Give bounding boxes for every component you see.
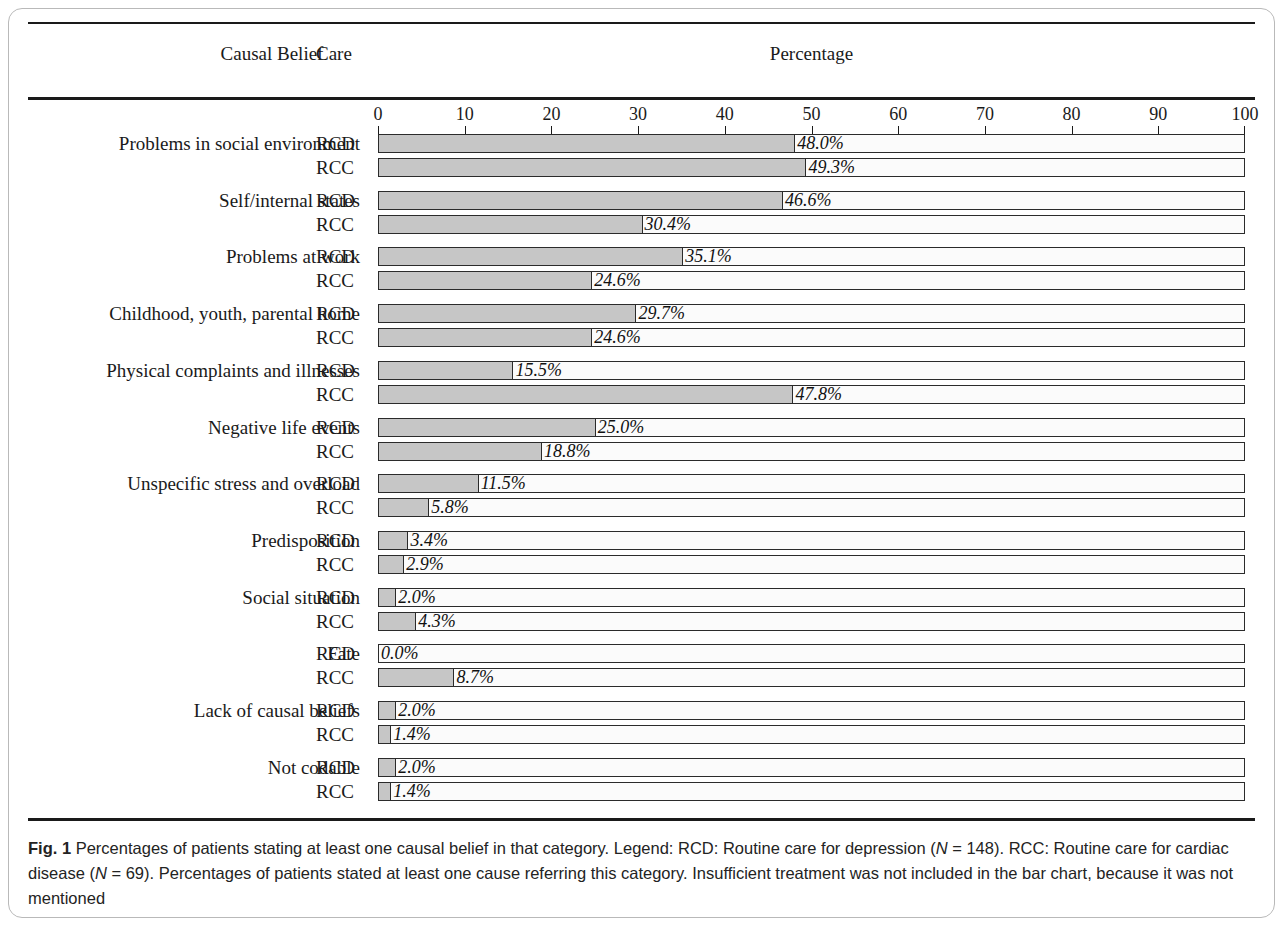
care-label-rcc: RCC [316,270,368,292]
bar-group: Childhood, youth, parental homeRCD29.7%R… [0,302,1283,350]
bar-group: Physical complaints and illnessesRCD15.5… [0,359,1283,407]
caption-n-italic-1: N [936,839,948,857]
bar-value-label: 8.7% [456,667,494,688]
bar-row: RCC1.4% [0,723,1283,747]
bar-value-label: 48.0% [797,133,844,154]
bar-track [378,418,1245,437]
bar-fill [379,783,391,800]
bar-fill [379,386,793,403]
care-label-rcd: RCD [316,757,368,779]
figure-caption: Fig. 1 Percentages of patients stating a… [28,836,1244,911]
x-axis-tick-label: 90 [1149,104,1167,125]
care-label-rcc: RCC [316,781,368,803]
bar-track [378,668,1245,687]
bar-value-label: 49.3% [808,157,855,178]
x-axis-tick-label: 60 [889,104,907,125]
bar-track [378,644,1245,663]
x-axis: 0102030405060708090100 [378,104,1245,132]
bar-fill [379,475,479,492]
bar-fill [379,216,643,233]
bar-row: RCC8.7% [0,666,1283,690]
bar-fill [379,192,783,209]
bar-group: Negative life eventsRCD25.0%RCC18.8% [0,416,1283,464]
bar-row: RCD2.0% [0,699,1283,723]
bar-fill [379,759,396,776]
bar-track [378,612,1245,631]
bar-row: RCD29.7% [0,302,1283,326]
bar-value-label: 18.8% [544,441,591,462]
rule-bottom [28,818,1255,821]
bar-fill [379,589,396,606]
bar-track [378,498,1245,517]
care-label-rcc: RCC [316,214,368,236]
bar-group: PredispositionRCD3.4%RCC2.9% [0,529,1283,577]
bar-fill [379,702,396,719]
x-axis-tick-label: 20 [542,104,560,125]
bar-fill [379,135,795,152]
bar-row: RCD25.0% [0,416,1283,440]
bar-value-label: 25.0% [598,417,645,438]
bar-value-label: 1.4% [393,724,431,745]
bar-track [378,215,1245,234]
bar-fill [379,556,404,573]
bar-track [378,758,1245,777]
care-label-rcd: RCD [316,587,368,609]
column-headers: Causal Belief Care Percentage [0,43,1283,73]
care-label-rcd: RCD [316,360,368,382]
bar-row: RCD46.6% [0,189,1283,213]
bar-value-label: 11.5% [481,473,526,494]
care-label-rcd: RCD [316,643,368,665]
bar-track [378,328,1245,347]
bar-track [378,725,1245,744]
bar-row: RCC47.8% [0,383,1283,407]
care-label-rcd: RCD [316,473,368,495]
x-axis-tick-label: 100 [1232,104,1259,125]
bar-track [378,531,1245,550]
x-axis-tick-label: 80 [1063,104,1081,125]
bar-row: RCD2.0% [0,756,1283,780]
care-label-rcd: RCD [316,417,368,439]
bar-track [378,442,1245,461]
bar-track [378,701,1245,720]
bar-row: RCC4.3% [0,610,1283,634]
bar-row: RCD15.5% [0,359,1283,383]
caption-text-3: = 69). Percentages of patients stated at… [28,864,1233,907]
bar-fill [379,305,636,322]
bar-group: Problems at workRCD35.1%RCC24.6% [0,245,1283,293]
bar-value-label: 2.0% [398,700,436,721]
x-axis-tick-label: 10 [456,104,474,125]
header-care: Care [316,43,376,65]
bar-value-label: 4.3% [418,611,456,632]
bar-value-label: 29.7% [638,303,685,324]
bar-value-label: 46.6% [785,190,832,211]
care-label-rcc: RCC [316,157,368,179]
x-axis-tick-label: 50 [803,104,821,125]
bar-row: RCD11.5% [0,472,1283,496]
bar-fill [379,329,592,346]
care-label-rcd: RCD [316,133,368,155]
bar-fill [379,362,513,379]
bar-fill [379,613,416,630]
bar-fill [379,272,592,289]
bar-value-label: 0.0% [381,643,419,664]
x-axis-tick-label: 0 [374,104,383,125]
caption-text-1: Percentages of patients stating at least… [71,839,936,857]
bar-track [378,588,1245,607]
bar-group: Not codableRCD2.0%RCC1.4% [0,756,1283,804]
bar-fill [379,159,806,176]
care-label-rcd: RCD [316,530,368,552]
bar-value-label: 1.4% [393,781,431,802]
x-axis-tick-label: 40 [716,104,734,125]
bar-row: RCC18.8% [0,440,1283,464]
bar-row: RCC24.6% [0,326,1283,350]
bar-fill [379,419,596,436]
bar-row: RCC49.3% [0,156,1283,180]
bar-row: RCC1.4% [0,780,1283,804]
figure-container: Causal Belief Care Percentage 0102030405… [0,0,1283,926]
x-axis-tick-label: 70 [976,104,994,125]
rule-middle [28,97,1255,100]
bar-row: RCC30.4% [0,213,1283,237]
bar-track [378,782,1245,801]
bar-row: RCC24.6% [0,269,1283,293]
bar-group: Social situationRCD2.0%RCC4.3% [0,586,1283,634]
